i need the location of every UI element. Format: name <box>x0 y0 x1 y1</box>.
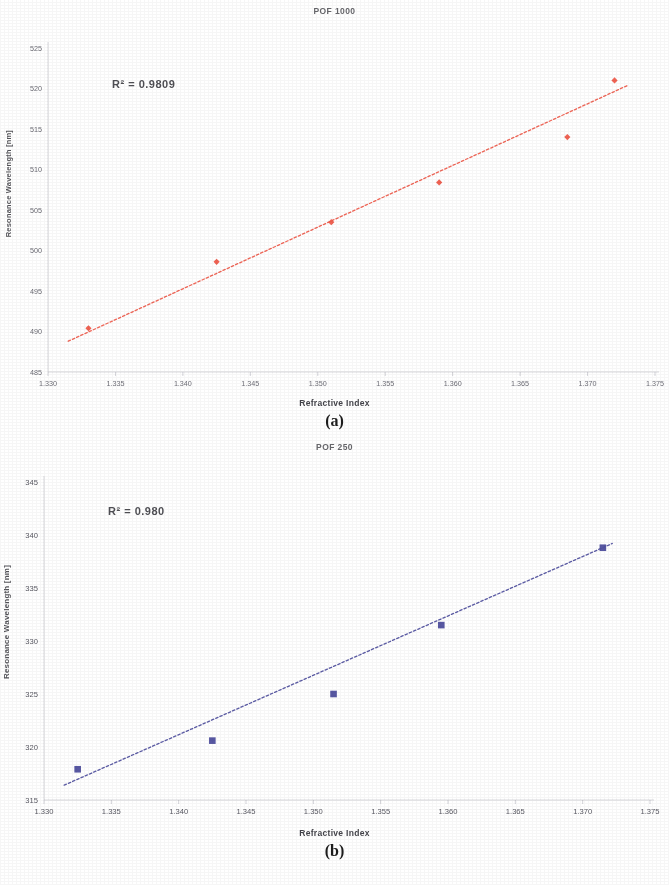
y-tick-label: 490 <box>30 327 42 336</box>
axis-spines <box>44 476 654 800</box>
y-tick-label: 325 <box>25 690 38 699</box>
y-tick-label: 345 <box>25 478 38 487</box>
data-point-marker <box>611 77 617 83</box>
data-point-marker <box>209 737 216 744</box>
x-tick-label: 1.365 <box>511 379 529 388</box>
x-tick-label: 1.370 <box>573 807 592 816</box>
trendline <box>68 85 628 341</box>
y-tick-label: 520 <box>30 84 42 93</box>
x-tick-label: 1.345 <box>236 807 255 816</box>
x-tick-label: 1.350 <box>304 807 323 816</box>
figure-b-caption: (b) <box>0 842 669 860</box>
data-point-marker <box>600 544 607 551</box>
x-tick-label: 1.330 <box>34 807 53 816</box>
figure-a: POF 1000 R² = 0.9809 Resonance Wavelengt… <box>0 0 669 440</box>
data-point-marker <box>436 179 442 185</box>
trendline <box>64 543 612 785</box>
x-tick-label: 1.350 <box>309 379 327 388</box>
data-point-marker <box>74 766 81 773</box>
figure-a-caption: (a) <box>0 412 669 430</box>
x-tick-label: 1.375 <box>646 379 664 388</box>
y-tick-label: 515 <box>30 125 42 134</box>
data-point-marker <box>438 622 445 629</box>
x-tick-label: 1.375 <box>640 807 659 816</box>
y-tick-label: 340 <box>25 531 38 540</box>
y-tick-label: 485 <box>30 368 42 377</box>
x-tick-label: 1.360 <box>444 379 462 388</box>
x-tick-label: 1.365 <box>506 807 525 816</box>
y-tick-label: 525 <box>30 44 42 53</box>
x-tick-label: 1.335 <box>106 379 124 388</box>
x-tick-label: 1.340 <box>174 379 192 388</box>
chart-a-plot-area: 1.3301.3351.3401.3451.3501.3551.3601.365… <box>0 0 669 400</box>
data-point-marker <box>330 691 337 698</box>
x-tick-label: 1.355 <box>371 807 390 816</box>
y-tick-label: 335 <box>25 584 38 593</box>
chart-b-plot-area: 1.3301.3351.3401.3451.3501.3551.3601.365… <box>0 440 669 830</box>
x-tick-label: 1.370 <box>579 379 597 388</box>
x-tick-label: 1.355 <box>376 379 394 388</box>
x-tick-label: 1.335 <box>102 807 121 816</box>
chart-b-x-axis-label: Refractive Index <box>0 828 669 838</box>
y-tick-label: 505 <box>30 206 42 215</box>
axis-spines <box>48 42 659 372</box>
y-tick-label: 330 <box>25 637 38 646</box>
data-point-marker <box>564 134 570 140</box>
x-tick-label: 1.360 <box>438 807 457 816</box>
x-tick-label: 1.330 <box>39 379 57 388</box>
y-tick-label: 510 <box>30 165 42 174</box>
x-tick-label: 1.340 <box>169 807 188 816</box>
chart-a-x-axis-label: Refractive Index <box>0 398 669 408</box>
data-point-marker <box>214 259 220 265</box>
y-tick-label: 315 <box>25 796 38 805</box>
x-tick-label: 1.345 <box>241 379 259 388</box>
y-tick-label: 320 <box>25 743 38 752</box>
figure-b: POF 250 R² = 0.980 Resonance Wavelength … <box>0 440 669 885</box>
y-tick-label: 495 <box>30 287 42 296</box>
y-tick-label: 500 <box>30 246 42 255</box>
